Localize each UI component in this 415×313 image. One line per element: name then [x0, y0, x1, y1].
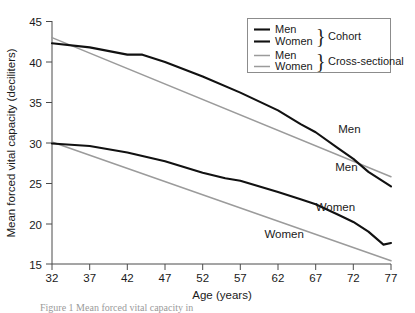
x-tick-label-67: 67 — [309, 272, 322, 284]
x-tick-label-47: 47 — [159, 272, 172, 284]
legend-group-label-cross: Cross-sectional — [328, 55, 404, 67]
x-tick-marks — [52, 264, 391, 270]
x-tick-label-42: 42 — [121, 272, 134, 284]
series-annotations: Men Men Women Women — [264, 123, 360, 240]
legend-label-cross-women: Women — [275, 60, 313, 72]
y-tick-label-40: 40 — [29, 57, 42, 69]
x-tick-label-32: 32 — [46, 272, 59, 284]
legend-group-label-cohort: Cohort — [328, 30, 361, 42]
y-axis-title: Mean forced vital capacity (deciliters) — [5, 48, 17, 237]
y-tick-marks — [46, 22, 52, 265]
y-tick-labels: 45 40 35 30 25 20 15 — [29, 16, 42, 271]
line-chart: 45 40 35 30 25 20 15 32 37 42 47 52 57 6… — [0, 0, 415, 313]
legend-brace-cohort: } — [316, 25, 326, 47]
y-tick-label-30: 30 — [29, 138, 42, 150]
x-tick-label-72: 72 — [347, 272, 360, 284]
annotation-men-cross: Men — [338, 123, 360, 135]
x-tick-label-37: 37 — [83, 272, 96, 284]
x-tick-label-62: 62 — [272, 272, 285, 284]
x-tick-label-52: 52 — [196, 272, 209, 284]
annotation-women-cross: Women — [264, 228, 303, 240]
legend-label-cohort-men: Men — [275, 23, 296, 35]
series-group — [52, 38, 391, 261]
x-tick-labels: 32 37 42 47 52 57 62 67 72 77 — [46, 272, 398, 284]
y-tick-label-20: 20 — [29, 219, 42, 231]
x-axis-title: Age (years) — [192, 289, 252, 301]
y-tick-label-35: 35 — [29, 97, 42, 109]
y-tick-label-25: 25 — [29, 178, 42, 190]
legend: Men Women } Cohort Men Women } Cross-sec… — [248, 19, 404, 73]
series-cohort-women — [52, 144, 391, 245]
y-tick-label-15: 15 — [29, 259, 42, 271]
legend-label-cohort-women: Women — [275, 35, 313, 47]
figure-caption: Figure 1 Mean forced vital capacity in — [40, 302, 193, 313]
x-tick-label-77: 77 — [385, 272, 398, 284]
figure-container: 45 40 35 30 25 20 15 32 37 42 47 52 57 6… — [0, 0, 415, 313]
annotation-women-cohort: Women — [316, 201, 355, 213]
legend-brace-cross: } — [316, 50, 326, 72]
x-tick-label-57: 57 — [234, 272, 247, 284]
y-tick-label-45: 45 — [29, 16, 42, 28]
annotation-men-cohort: Men — [335, 161, 357, 173]
